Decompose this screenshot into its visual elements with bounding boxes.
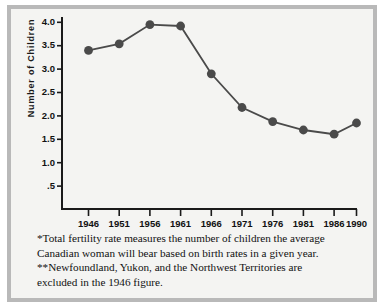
data-point-1966	[207, 69, 216, 78]
x-tick-label-1956: 1956	[134, 218, 166, 229]
figure-container: Number of Children 4.0 3.5 3.0 2.5 2.0 1…	[0, 0, 384, 307]
footnote-line-4: excluded in the 1946 figure.	[37, 275, 357, 290]
x-tick-label-1990: 1990	[341, 218, 373, 229]
data-point-1981	[299, 126, 308, 135]
x-tick-label-1966: 1966	[195, 218, 227, 229]
data-point-1951	[115, 39, 124, 48]
chart-frame: Number of Children 4.0 3.5 3.0 2.5 2.0 1…	[7, 5, 377, 302]
data-point-1961	[176, 22, 185, 31]
x-tick-marks	[89, 209, 357, 216]
data-point-1946	[84, 46, 93, 55]
data-point-1956	[146, 20, 155, 29]
footnotes: *Total fertility rate measures the numbe…	[37, 231, 357, 289]
data-point-1986	[330, 130, 339, 139]
footnote-line-3: **Newfoundland, Yukon, and the Northwest…	[37, 260, 357, 275]
x-tick-label-1951: 1951	[103, 218, 135, 229]
chart-panel: Number of Children 4.0 3.5 3.0 2.5 2.0 1…	[11, 9, 373, 298]
data-point-1971	[238, 103, 247, 112]
data-markers	[84, 20, 361, 138]
x-tick-label-1946: 1946	[73, 218, 105, 229]
data-point-1990	[352, 119, 361, 128]
x-tick-label-1981: 1981	[287, 218, 319, 229]
x-tick-label-1961: 1961	[165, 218, 197, 229]
x-tick-label-1971: 1971	[226, 218, 258, 229]
data-line	[89, 25, 357, 135]
x-tick-label-1976: 1976	[257, 218, 289, 229]
data-point-1976	[268, 117, 277, 126]
footnote-line-1: *Total fertility rate measures the numbe…	[37, 231, 357, 246]
footnote-line-2: Canadian woman will bear based on birth …	[37, 246, 357, 261]
